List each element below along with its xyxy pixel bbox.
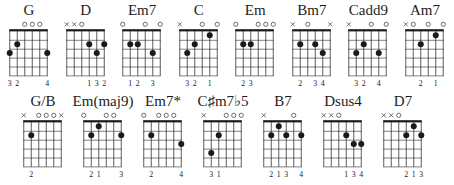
finger-number: 2 xyxy=(298,79,302,88)
muted-string-marker xyxy=(329,113,333,117)
nut xyxy=(83,120,122,122)
finger-dot xyxy=(208,150,214,156)
finger-dot xyxy=(101,41,107,47)
finger-dot xyxy=(403,132,409,138)
finger-dot xyxy=(135,41,141,47)
chord-grid: 324 xyxy=(6,19,52,89)
finger-number: 3 xyxy=(94,79,98,88)
open-string-marker xyxy=(164,113,168,117)
open-string-marker xyxy=(215,22,219,26)
finger-dot xyxy=(361,41,367,47)
chord-diagram: B7 2134 xyxy=(260,93,306,180)
finger-dot xyxy=(216,132,222,138)
chord-grid: 213 xyxy=(380,110,426,180)
chord-title: Em(maj9) xyxy=(73,93,134,110)
chord-grid: 132 xyxy=(63,19,109,89)
muted-string-marker xyxy=(22,113,26,117)
open-string-marker xyxy=(158,22,162,26)
chord-grid: 31 xyxy=(200,110,246,180)
finger-dot xyxy=(298,132,304,138)
nut xyxy=(143,120,182,122)
finger-number: 4 xyxy=(377,79,381,88)
finger-dot xyxy=(206,32,212,38)
muted-string-marker xyxy=(291,22,295,26)
chord-grid: 324 xyxy=(345,19,391,89)
open-string-marker xyxy=(30,22,34,26)
finger-dot xyxy=(376,50,382,56)
open-string-marker xyxy=(172,113,176,117)
finger-number: 3 xyxy=(8,79,12,88)
muted-string-marker xyxy=(347,22,351,26)
open-string-marker xyxy=(305,22,309,26)
chord-title: Am7 xyxy=(410,2,440,19)
finger-dot xyxy=(343,132,349,138)
open-string-marker xyxy=(256,22,260,26)
chord-diagram: C 321 xyxy=(176,2,222,89)
chord-diagram: Bm7 234 xyxy=(289,2,335,89)
finger-dot xyxy=(320,50,326,56)
finger-number: 1 xyxy=(97,170,101,179)
chord-grid: 2 xyxy=(20,110,66,180)
finger-number: 2 xyxy=(15,79,19,88)
finger-dot xyxy=(148,132,154,138)
nut xyxy=(203,120,242,122)
chord-grid: 213 xyxy=(80,110,126,180)
finger-number: 4 xyxy=(321,79,325,88)
finger-dot xyxy=(150,50,156,56)
finger-number: 3 xyxy=(355,79,359,88)
finger-dot xyxy=(351,141,357,147)
finger-number: 4 xyxy=(179,170,183,179)
chord-chart: G 324 D 132 Em7 123 C 321 Em 23 Bm7 234 … xyxy=(0,0,454,185)
finger-dot xyxy=(433,32,439,38)
open-string-marker xyxy=(441,22,445,26)
finger-number: 2 xyxy=(362,79,366,88)
finger-dot xyxy=(28,132,34,138)
finger-number: 4 xyxy=(45,79,49,88)
finger-number: 1 xyxy=(128,79,132,88)
chord-grid: 123 xyxy=(119,19,165,89)
muted-string-marker xyxy=(389,113,393,117)
chord-grid: 2134 xyxy=(260,110,306,180)
chord-title: Em7* xyxy=(145,93,181,110)
finger-number: 1 xyxy=(217,170,221,179)
open-string-marker xyxy=(385,22,389,26)
chord-diagram: Am7 21 xyxy=(402,2,448,89)
muted-string-marker xyxy=(404,22,408,26)
nut xyxy=(66,29,105,31)
chord-diagram: C♯m7♭5 31 xyxy=(200,93,246,180)
finger-number: 3 xyxy=(119,170,123,179)
finger-number: 2 xyxy=(136,79,140,88)
finger-dot xyxy=(276,123,282,129)
open-string-marker xyxy=(157,113,161,117)
finger-number: 1 xyxy=(277,170,281,179)
finger-number: 2 xyxy=(419,79,423,88)
finger-number: 1 xyxy=(412,170,416,179)
chord-diagram: D7 213 xyxy=(380,93,426,180)
open-string-marker xyxy=(142,113,146,117)
open-string-marker xyxy=(44,113,48,117)
open-string-marker xyxy=(200,22,204,26)
muted-string-marker xyxy=(59,113,63,117)
chord-title: D7 xyxy=(394,93,412,110)
finger-number: 2 xyxy=(89,170,93,179)
open-string-marker xyxy=(232,113,236,117)
finger-number: 3 xyxy=(151,79,155,88)
chord-grid: 321 xyxy=(176,19,222,89)
finger-number: 2 xyxy=(29,170,33,179)
open-string-marker xyxy=(264,22,268,26)
finger-dot xyxy=(248,41,254,47)
chord-diagram: D 132 xyxy=(63,2,109,89)
finger-dot xyxy=(418,41,424,47)
nut xyxy=(292,29,331,31)
nut xyxy=(179,29,218,31)
open-string-marker xyxy=(397,113,401,117)
finger-dot xyxy=(241,41,247,47)
chord-row-2: G/B 2 Em(maj9) 213 Em7* 24 C♯m7♭5 31 B7 … xyxy=(0,93,454,180)
chord-title: Em xyxy=(245,2,266,19)
finger-dot xyxy=(184,50,190,56)
chord-title: B7 xyxy=(274,93,292,110)
muted-string-marker xyxy=(382,113,386,117)
chord-title: Cadd9 xyxy=(349,2,388,19)
finger-dot xyxy=(44,50,50,56)
chord-grid: 21 xyxy=(402,19,448,89)
